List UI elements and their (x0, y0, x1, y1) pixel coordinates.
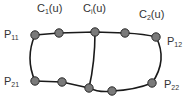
node-p11 (31, 31, 39, 39)
middle-curve (89, 32, 95, 88)
bottom-curve (35, 81, 152, 92)
corner-label-p11: P11 (4, 29, 19, 41)
curve-label-ci: Ci(u) (83, 3, 106, 15)
curve-label-c1: C1(u) (37, 3, 62, 15)
node-top-1 (55, 29, 63, 37)
left-boundary-curve (30, 35, 35, 81)
node-bot-mid (85, 84, 93, 92)
corner-label-p22: P22 (164, 79, 179, 91)
node-p21 (31, 77, 39, 85)
curve-label-c2: C2(u) (139, 9, 164, 21)
node-top-3 (121, 29, 129, 37)
node-p12 (152, 33, 160, 41)
corner-label-p12: P12 (167, 36, 182, 48)
node-bot-1 (58, 78, 66, 86)
node-top-mid (91, 28, 99, 36)
right-boundary-curve (152, 37, 161, 83)
node-p22 (148, 79, 156, 87)
node-bot-3 (108, 87, 116, 95)
corner-label-p21: P21 (4, 76, 19, 88)
